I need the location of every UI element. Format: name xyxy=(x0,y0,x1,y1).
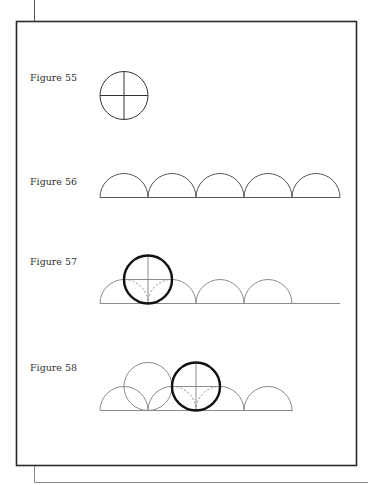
figure-56-label: Figure 56 xyxy=(30,176,77,187)
page-canvas: Figure 55 Figure 56 Figure 57 xyxy=(0,0,368,485)
divided-circle-icon xyxy=(100,72,148,120)
figure-57-label: Figure 57 xyxy=(30,256,77,267)
page-frame xyxy=(17,22,357,466)
figure-55-label: Figure 55 xyxy=(30,72,77,83)
figure-58-label: Figure 58 xyxy=(30,362,77,373)
